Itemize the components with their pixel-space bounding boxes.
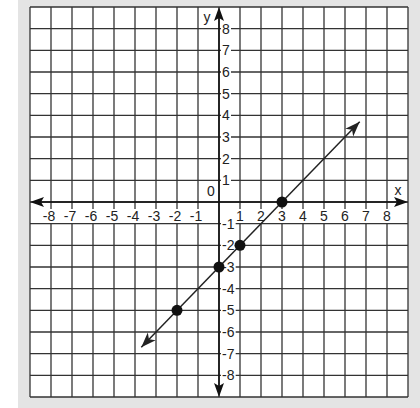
y-tick-label: -7 — [222, 346, 235, 362]
x-tick-label: -3 — [148, 208, 161, 224]
y-tick-label: 8 — [222, 21, 230, 37]
y-tick-label: 1 — [222, 172, 230, 188]
x-tick-label: -7 — [64, 208, 77, 224]
origin-label: 0 — [207, 183, 215, 199]
data-point — [172, 305, 183, 316]
y-tick-label: -5 — [222, 302, 235, 318]
y-tick-label: 5 — [222, 86, 230, 102]
x-tick-label: 1 — [236, 208, 244, 224]
y-tick-label: -1 — [222, 216, 235, 232]
x-tick-label: -1 — [190, 208, 203, 224]
y-tick-label: 7 — [222, 42, 230, 58]
y-tick-label: -2 — [222, 237, 235, 253]
x-tick-label: -6 — [85, 208, 98, 224]
y-tick-label: 3 — [222, 129, 230, 145]
data-point — [235, 240, 246, 251]
x-tick-label: -2 — [169, 208, 182, 224]
x-tick-label: 7 — [362, 208, 370, 224]
data-point — [277, 197, 288, 208]
x-tick-label: -8 — [43, 208, 56, 224]
y-tick-label: 2 — [222, 151, 230, 167]
data-point — [214, 262, 225, 273]
y-tick-label: -4 — [222, 281, 235, 297]
y-tick-label: 4 — [222, 107, 230, 123]
coordinate-plane: -8-7-6-5-4-3-2-11234567887654321-1-2-3-4… — [0, 0, 420, 408]
x-tick-label: 3 — [278, 208, 286, 224]
x-tick-label: 8 — [383, 208, 391, 224]
y-axis-label: y — [204, 9, 211, 25]
x-tick-label: -4 — [127, 208, 140, 224]
y-tick-label: 6 — [222, 64, 230, 80]
x-tick-label: 6 — [341, 208, 349, 224]
x-tick-label: 4 — [299, 208, 307, 224]
x-tick-label: 5 — [320, 208, 328, 224]
y-tick-label: -8 — [222, 367, 235, 383]
x-tick-label: -5 — [106, 208, 119, 224]
x-axis-label: x — [395, 182, 402, 198]
y-tick-label: -6 — [222, 324, 235, 340]
